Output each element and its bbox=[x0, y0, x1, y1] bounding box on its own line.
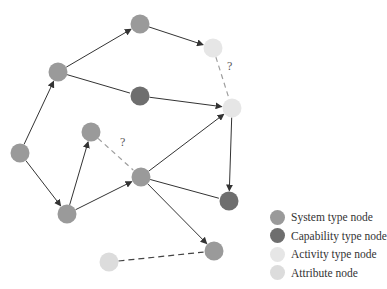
legend-item-attribute: Attribute node bbox=[270, 264, 387, 283]
legend-label: Attribute node bbox=[291, 267, 358, 279]
capability-node-E bbox=[131, 87, 150, 106]
capability-node-swatch-icon bbox=[270, 228, 285, 243]
edge-C-D bbox=[149, 27, 203, 45]
edge-I-H bbox=[75, 182, 131, 210]
edge-L-K bbox=[118, 252, 203, 261]
activity-node-swatch-icon bbox=[270, 247, 285, 262]
legend-label: Activity type node bbox=[291, 248, 377, 260]
capability-node-J bbox=[220, 192, 239, 211]
edge-E-F bbox=[149, 97, 221, 106]
edges-layer bbox=[24, 27, 232, 261]
system-node-B bbox=[49, 63, 68, 82]
system-node-G bbox=[82, 123, 101, 142]
edge-A-I bbox=[26, 161, 61, 206]
legend-item-activity: Activity type node bbox=[270, 245, 387, 264]
edge-B-E bbox=[67, 75, 130, 93]
nodes-layer bbox=[11, 15, 242, 272]
system-node-K bbox=[205, 242, 224, 261]
question-mark-label: ? bbox=[227, 59, 232, 74]
edge-H-F bbox=[149, 114, 224, 171]
attribute-node-L bbox=[100, 253, 119, 272]
legend-label: Capability type node bbox=[291, 230, 387, 242]
system-node-C bbox=[131, 15, 150, 34]
attribute-node-swatch-icon bbox=[270, 265, 285, 280]
legend-label: System type node bbox=[291, 211, 373, 223]
system-node-H bbox=[132, 168, 151, 187]
system-node-I bbox=[58, 205, 77, 224]
edge-A-B bbox=[24, 82, 54, 145]
activity-node-D bbox=[204, 39, 223, 58]
edge-I-G bbox=[70, 142, 88, 205]
edge-H-J bbox=[150, 179, 219, 198]
edge-B-C bbox=[66, 29, 131, 67]
edge-F-J bbox=[229, 117, 231, 190]
legend: System type node Capability type node Ac… bbox=[270, 208, 387, 282]
question-mark-label: ? bbox=[120, 135, 125, 150]
legend-item-system: System type node bbox=[270, 208, 387, 227]
edge-G-H bbox=[98, 138, 133, 170]
system-node-swatch-icon bbox=[270, 210, 285, 225]
activity-node-F bbox=[223, 99, 242, 118]
system-node-A bbox=[11, 144, 30, 163]
legend-item-capability: Capability type node bbox=[270, 227, 387, 246]
